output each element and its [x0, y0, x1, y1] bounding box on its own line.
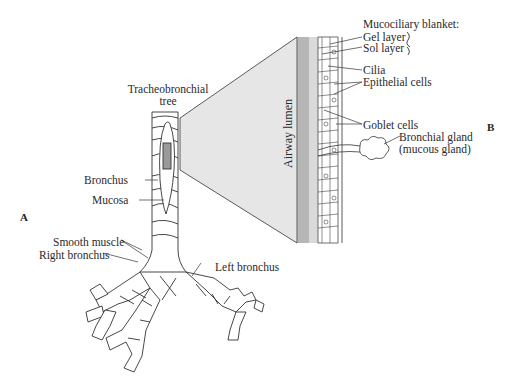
- label-mucosa: Mucosa: [92, 194, 128, 206]
- label-epithelial-cells: Epithelial cells: [363, 76, 432, 88]
- label-cilia: Cilia: [363, 64, 385, 76]
- title-tracheobronchial-tree: Tracheobronchial tree: [113, 83, 223, 107]
- label-goblet-cells: Goblet cells: [363, 119, 418, 131]
- trachea: [140, 112, 186, 272]
- label-airway-lumen: Airway lumen: [281, 94, 296, 174]
- label-bronchial-gland: Bronchial gland (mucous gland): [399, 131, 473, 155]
- title-line2: tree: [113, 95, 223, 107]
- label-bronchus: Bronchus: [84, 174, 128, 186]
- bronchial-gland-line2: (mucous gland): [399, 143, 473, 155]
- bronchial-branches: [86, 272, 264, 372]
- bronchial-gland-line1: Bronchial gland: [399, 131, 473, 143]
- diagram-canvas: [0, 0, 508, 376]
- panel-label-b: B: [487, 121, 494, 133]
- magnification-wedge: [180, 37, 297, 243]
- label-smooth-muscle: Smooth muscle: [53, 236, 124, 248]
- label-mucociliary-blanket: Mucociliary blanket:: [363, 18, 459, 30]
- label-right-bronchus: Right bronchus: [39, 249, 110, 261]
- bronchial-gland-shape: [360, 136, 389, 159]
- layer-brace: [407, 32, 410, 55]
- title-line1: Tracheobronchial: [113, 83, 223, 95]
- label-left-bronchus: Left bronchus: [215, 261, 279, 273]
- panel-label-a: A: [20, 211, 28, 223]
- label-sol-layer: Sol layer: [363, 42, 404, 54]
